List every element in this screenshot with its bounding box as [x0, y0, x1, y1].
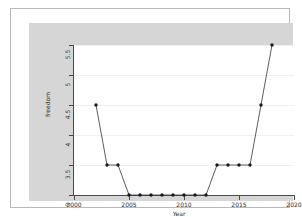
- x-tick-label: 2010: [169, 201, 199, 208]
- x-tick-label: 2000: [59, 201, 89, 208]
- x-tick-label: 2015: [224, 201, 254, 208]
- data-point: [226, 163, 229, 166]
- x-tick-mark: [294, 196, 295, 200]
- data-point: [237, 163, 240, 166]
- figure-border: 33.544.555.5 20002005201020152020 freedo…: [10, 8, 290, 208]
- data-point: [171, 193, 174, 196]
- x-tick-label: 2005: [114, 201, 144, 208]
- chart-figure: 33.544.555.5 20002005201020152020 freedo…: [29, 23, 293, 201]
- data-point: [259, 103, 262, 106]
- data-point: [182, 193, 185, 196]
- data-point: [215, 163, 218, 166]
- data-point: [270, 43, 273, 46]
- data-point: [204, 193, 207, 196]
- data-point: [116, 163, 119, 166]
- data-point: [138, 193, 141, 196]
- x-tick-label: 2020: [279, 201, 300, 208]
- data-point: [94, 103, 97, 106]
- data-point: [127, 193, 130, 196]
- data-point: [160, 193, 163, 196]
- data-point: [149, 193, 152, 196]
- series-line-freedom: [29, 23, 293, 201]
- x-axis-title: Year: [149, 210, 209, 217]
- data-point: [248, 163, 251, 166]
- series-path: [96, 45, 272, 195]
- data-point: [105, 163, 108, 166]
- data-point: [193, 193, 196, 196]
